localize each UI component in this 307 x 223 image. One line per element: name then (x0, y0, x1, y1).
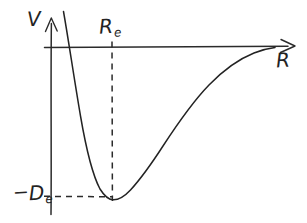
well-depth-guide-dashed-line (44, 196, 112, 197)
well-depth-label: −De (13, 182, 53, 204)
well-depth-label-minus-text: − (12, 180, 29, 203)
horizontal-axis-label-text: R (275, 48, 291, 73)
equilibrium-label-base-text: R (98, 14, 114, 39)
equilibrium-distance-label: Re (98, 15, 121, 36)
well-depth-label-subscript-text: e (45, 192, 53, 206)
vertical-axis-label-text: V (26, 7, 41, 32)
well-depth-label-base-text: D (28, 180, 45, 205)
morse-potential-figure: V Re R −De (0, 0, 307, 223)
vertical-axis-label: V (26, 9, 41, 30)
horizontal-axis-line (45, 46, 289, 47)
horizontal-axis-label: R (275, 50, 291, 71)
potential-energy-curve (64, 12, 276, 200)
equilibrium-label-subscript-text: e (113, 25, 121, 39)
